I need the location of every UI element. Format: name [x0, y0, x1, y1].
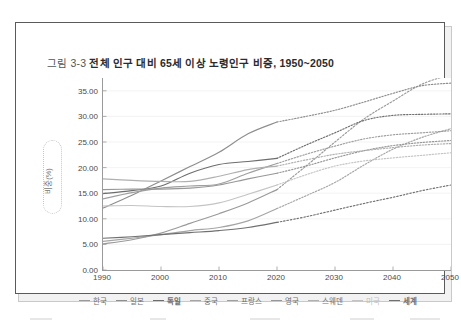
x-axis-tick: 2000 — [138, 273, 182, 282]
series-projection-중국 — [277, 129, 451, 209]
x-axis-tick: 2030 — [312, 273, 356, 282]
page-canvas: 그림 3-3 전체 인구 대비 65세 이상 노령인구 비중, 1950~205… — [0, 0, 461, 326]
legend-swatch-icon — [308, 300, 319, 301]
legend-label: 영국 — [285, 295, 299, 306]
legend-swatch-icon — [227, 300, 238, 301]
figure-caption: 전체 인구 대비 65세 이상 노령인구 비중, 1950~2050 — [89, 57, 334, 69]
legend-swatch-icon — [79, 300, 90, 301]
scan-artifact — [30, 318, 52, 320]
legend-item-한국[interactable]: 한국 — [79, 295, 107, 306]
y-axis-tick: 15.00 — [64, 189, 98, 198]
chart-container: 비중(%) 0.005.0010.0015.0020.0025.0030.003… — [40, 78, 455, 293]
series-line-스웨덴 — [103, 166, 277, 182]
chart-legend: 한국일본독일중국프랑스영국스웨덴미국세계 — [40, 295, 455, 306]
legend-item-중국[interactable]: 중국 — [190, 295, 218, 306]
page-title: 그림 3-3 전체 인구 대비 65세 이상 노령인구 비중, 1950~205… — [47, 55, 334, 70]
x-axis-tick: 2020 — [254, 273, 298, 282]
legend-label: 프랑스 — [241, 295, 262, 306]
scan-artifact — [410, 318, 440, 320]
figure-card: 그림 3-3 전체 인구 대비 65세 이상 노령인구 비중, 1950~205… — [15, 22, 445, 294]
chart-lines-svg — [103, 78, 451, 270]
series-line-일본 — [103, 122, 277, 208]
legend-label: 중국 — [204, 295, 218, 306]
legend-swatch-icon — [352, 300, 363, 301]
legend-label: 세계 — [403, 295, 417, 306]
legend-swatch-icon — [389, 300, 400, 301]
y-axis-tick: 25.00 — [64, 138, 98, 147]
x-axis-tick: 2040 — [370, 273, 414, 282]
figure-number: 그림 3-3 — [47, 57, 86, 69]
legend-item-스웨덴[interactable]: 스웨덴 — [308, 295, 343, 306]
legend-item-미국[interactable]: 미국 — [352, 295, 380, 306]
legend-label: 스웨덴 — [322, 295, 343, 306]
legend-swatch-icon — [190, 300, 201, 301]
legend-label: 한국 — [93, 295, 107, 306]
legend-item-영국[interactable]: 영국 — [271, 295, 299, 306]
series-line-한국 — [103, 190, 277, 244]
legend-item-프랑스[interactable]: 프랑스 — [227, 295, 262, 306]
plot-area — [102, 78, 451, 271]
x-axis-tick-labels: 1990200020102020203020402050 — [102, 273, 450, 289]
y-axis-tick: 10.00 — [64, 214, 98, 223]
y-axis-label: 비중(%) — [42, 151, 53, 211]
y-axis-tick: 20.00 — [64, 163, 98, 172]
legend-item-일본[interactable]: 일본 — [116, 295, 144, 306]
legend-label: 일본 — [130, 295, 144, 306]
scan-artifact — [350, 318, 374, 320]
y-axis-tick: 30.00 — [64, 112, 98, 121]
y-axis-tick: 35.00 — [64, 86, 98, 95]
series-projection-미국 — [277, 153, 451, 185]
legend-swatch-icon — [116, 300, 127, 301]
y-axis-tick-labels: 0.005.0010.0015.0020.0025.0030.0035.00 — [62, 78, 98, 270]
x-axis-tick: 2050 — [428, 273, 461, 282]
series-projection-프랑스 — [277, 131, 451, 164]
legend-item-세계[interactable]: 세계 — [389, 295, 417, 306]
scan-artifact — [150, 318, 166, 320]
legend-item-독일[interactable]: 독일 — [153, 295, 181, 306]
series-projection-한국 — [277, 78, 451, 190]
legend-label: 독일 — [167, 295, 181, 306]
x-axis-tick: 1990 — [80, 273, 124, 282]
page-scan-artifacts — [0, 312, 461, 326]
legend-swatch-icon — [271, 300, 282, 301]
y-axis-tick: 5.00 — [64, 240, 98, 249]
legend-swatch-icon — [153, 300, 164, 301]
series-projection-세계 — [277, 185, 451, 222]
x-axis-tick: 2010 — [196, 273, 240, 282]
scan-artifact — [250, 318, 280, 320]
legend-label: 미국 — [366, 295, 380, 306]
